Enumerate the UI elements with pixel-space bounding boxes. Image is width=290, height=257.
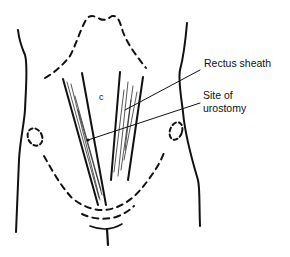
diagram-drawing <box>0 0 290 257</box>
rib-margin-dashed <box>45 16 146 78</box>
left-flank-outline <box>16 30 27 232</box>
rectus-sheath-label: Rectus sheath <box>204 57 271 69</box>
left-rectus-outer-edge <box>63 79 98 205</box>
left-rectus-fibres <box>67 82 102 200</box>
urostomy-site-marker <box>86 138 89 141</box>
urostomy-site-label-line2: urostomy <box>203 102 246 114</box>
left-iliac-crest-dashed <box>25 126 45 148</box>
right-rectus-inner-edge <box>111 72 120 180</box>
abdomen-diagram: c Rectus sheath Site of urostomy <box>0 0 290 257</box>
genital-midline <box>107 229 108 245</box>
rectus-sheath-leader-line <box>125 70 200 110</box>
pubic-arc <box>90 224 122 229</box>
umbilicus-marker: c <box>99 92 104 102</box>
urostomy-site-label-line1: Site of <box>203 89 233 101</box>
right-iliac-crest-dashed <box>167 120 184 141</box>
